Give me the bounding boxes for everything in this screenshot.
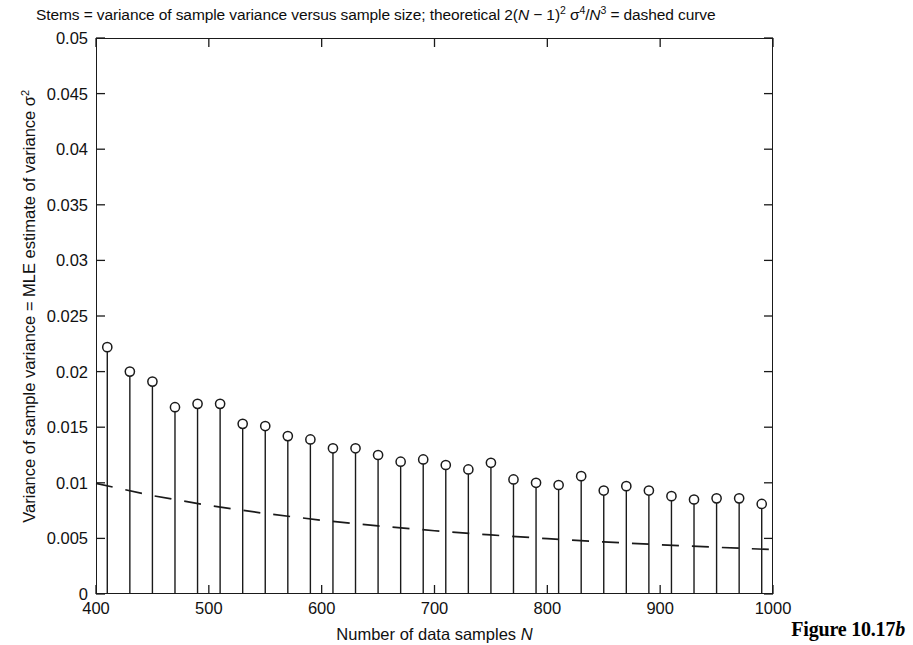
y-axis-tick-label: 0.02 (56, 362, 88, 381)
caption-sigma: σ (566, 6, 580, 23)
stem-marker (757, 499, 766, 508)
figure-number-text: Figure 10.17 (791, 618, 895, 640)
stem-marker (193, 399, 202, 408)
x-axis-label: Number of data samples N (96, 625, 773, 644)
x-axis-tick-label: 400 (82, 599, 110, 618)
y-axis-tick-label: 0.035 (47, 195, 88, 214)
caption-var-n: N (518, 6, 529, 23)
stem-marker (577, 472, 586, 481)
stem-marker (689, 495, 698, 504)
stem-marker (373, 450, 382, 459)
x-axis-tick-labels: 4005006007008009001000 (96, 599, 773, 623)
figure-root: Stems = variance of sample variance vers… (0, 0, 913, 645)
x-axis-tick-label: 1000 (755, 599, 792, 618)
y-axis-tick-label: 0.03 (56, 251, 88, 270)
x-axis-tick-label: 500 (195, 599, 223, 618)
stem-marker (328, 444, 337, 453)
x-axis-label-var: N (521, 625, 533, 643)
stem-marker (509, 475, 518, 484)
y-axis-label-exponent: 2 (19, 90, 31, 96)
stem-marker (667, 492, 676, 501)
caption-var-n2: N (589, 6, 600, 23)
figure-number: Figure 10.17b (791, 618, 905, 641)
stem-marker (238, 419, 247, 428)
stem-marker (148, 377, 157, 386)
y-axis-tick-label: 0.01 (56, 473, 88, 492)
stem-series (103, 343, 767, 594)
caption-mid: − 1) (529, 6, 560, 23)
stem-marker (396, 457, 405, 466)
x-axis-label-text: Number of data samples (336, 625, 520, 643)
stem-marker (419, 455, 428, 464)
x-axis-tick-label: 800 (534, 599, 562, 618)
plot-canvas (96, 38, 773, 594)
stem-marker (735, 494, 744, 503)
stem-marker (306, 435, 315, 444)
y-axis-tick-label: 0.045 (47, 84, 88, 103)
x-axis-tick-label: 600 (308, 599, 336, 618)
stem-marker (622, 482, 631, 491)
stem-marker (599, 486, 608, 495)
stem-marker (464, 465, 473, 474)
stem-marker (170, 403, 179, 412)
x-axis-tick-label: 700 (421, 599, 449, 618)
stem-marker (261, 421, 270, 430)
caption-suffix: = dashed curve (606, 6, 715, 23)
stem-marker (216, 399, 225, 408)
stem-marker (283, 431, 292, 440)
stem-marker (554, 480, 563, 489)
stem-marker (644, 486, 653, 495)
stem-marker (712, 494, 721, 503)
x-axis-tick-label: 900 (646, 599, 674, 618)
y-axis-label: Variance of sample variance = MLE estima… (19, 16, 40, 596)
y-axis-tick-label: 0.05 (56, 29, 88, 48)
y-axis-tick-label: 0.04 (56, 140, 88, 159)
y-axis-tick-label: 0.015 (47, 418, 88, 437)
stem-marker (531, 478, 540, 487)
stem-marker (103, 343, 112, 352)
y-axis-tick-label: 0.005 (47, 529, 88, 548)
plot-area (96, 38, 773, 594)
figure-caption: Stems = variance of sample variance vers… (36, 4, 715, 24)
stem-marker (441, 460, 450, 469)
caption-prefix: Stems = variance of sample variance vers… (36, 6, 518, 23)
y-axis-tick-labels: 00.0050.010.0150.020.0250.030.0350.040.0… (0, 38, 88, 594)
stem-marker (486, 458, 495, 467)
y-axis-label-text: Variance of sample variance = MLE estima… (20, 96, 38, 523)
y-axis-tick-label: 0.025 (47, 307, 88, 326)
figure-number-suffix: b (895, 618, 905, 640)
stem-marker (351, 444, 360, 453)
stem-marker (125, 367, 134, 376)
